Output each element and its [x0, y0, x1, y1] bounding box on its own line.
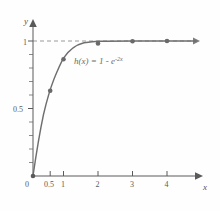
- function-exponent-text: -2x: [115, 56, 123, 62]
- x-tick-label-4: 4: [165, 180, 169, 189]
- data-point-x0.5: [48, 88, 53, 93]
- y-tick-label-1: 1: [23, 38, 27, 47]
- x-tick-label-0: 0: [25, 180, 29, 189]
- exponential-function-graph-figure: 0 0.5 1 2 3 4 1 0.5 y x h(x) = 1 - e-2x: [0, 0, 220, 211]
- y-tick-label-0.5: 0.5: [13, 105, 23, 114]
- x-tick-label-2: 2: [96, 180, 100, 189]
- x-axis-label: x: [202, 182, 207, 192]
- x-tick-label-0.5: 0.5: [44, 180, 54, 189]
- x-tick-label-3: 3: [130, 180, 134, 189]
- data-point-x0: [31, 174, 36, 179]
- data-point-x3: [130, 39, 135, 44]
- data-point-x2: [96, 41, 101, 46]
- y-axis-label: y: [23, 16, 28, 26]
- data-point-x1: [61, 57, 66, 62]
- function-label-text: h(x) = 1 - e: [74, 56, 115, 66]
- plot-canvas: 0 0.5 1 2 3 4 1 0.5 y x h(x) = 1 - e-2x: [0, 0, 220, 211]
- x-tick-label-1: 1: [61, 180, 65, 189]
- data-point-x4: [165, 39, 170, 44]
